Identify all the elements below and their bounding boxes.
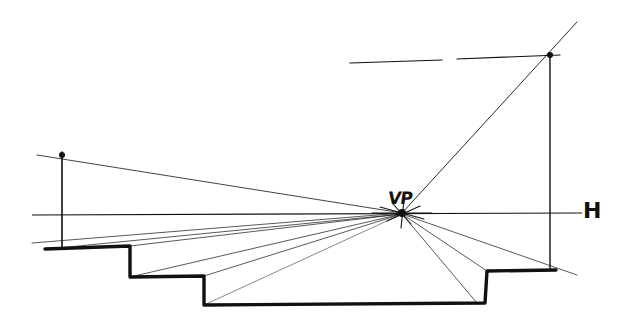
point-marker	[59, 152, 65, 158]
construction-line	[204, 214, 402, 305]
vanishing-point-label: VP	[387, 190, 413, 207]
point-marker	[547, 52, 553, 58]
construction-lines	[32, 22, 577, 305]
point-marker	[398, 209, 406, 217]
construction-line	[130, 214, 402, 277]
construction-line	[48, 214, 402, 249]
construction-line	[402, 22, 577, 213]
construction-line	[32, 213, 402, 243]
perspective-sketch	[0, 0, 633, 334]
construction-line	[204, 214, 402, 276]
construction-line	[130, 214, 402, 246]
construction-line	[37, 155, 402, 213]
construction-line	[402, 214, 487, 271]
construction-line	[402, 214, 577, 275]
construction-line	[350, 60, 442, 63]
section-profile	[45, 246, 556, 305]
horizon-line	[32, 213, 582, 215]
horizon-line-label: H	[583, 200, 601, 222]
point-markers	[59, 52, 553, 217]
